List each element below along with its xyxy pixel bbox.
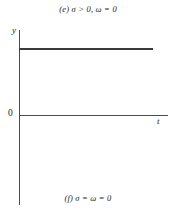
y-axis-label: y — [12, 26, 16, 35]
t-axis-label: t — [157, 117, 160, 126]
figure-caption-bottom: (f) σ = ω = 0 — [0, 193, 176, 203]
figure-panel: (e) σ > 0, ω = 0 y t 0 (f) σ = ω = 0 — [0, 0, 176, 211]
t-axis-line — [19, 115, 168, 116]
y-axis-line — [19, 30, 20, 205]
figure-caption-top: (e) σ > 0, ω = 0 — [0, 4, 176, 14]
constant-curve-line — [19, 48, 153, 50]
origin-label: 0 — [8, 109, 13, 119]
